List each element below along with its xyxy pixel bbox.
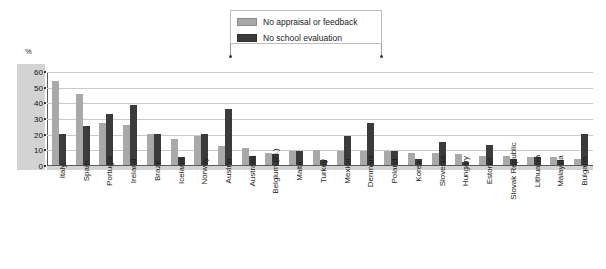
category-label: Bulgaria — [581, 156, 589, 185]
category-label: Slovak Republic — [510, 142, 518, 199]
category-label: Italy — [59, 164, 67, 179]
bar-group — [450, 72, 474, 165]
category-label-cell: Iceland — [166, 169, 190, 265]
bar-group — [189, 72, 213, 165]
y-tick-dot-40 — [44, 102, 46, 104]
category-label: Poland — [391, 159, 399, 184]
y-tick-10: 10 — [17, 146, 43, 155]
legend-callout-dot-right — [380, 55, 383, 58]
chart-legend: No appraisal or feedback No school evalu… — [230, 10, 382, 44]
category-label: Turkey — [320, 159, 328, 183]
bar-group — [356, 72, 380, 165]
bar-group — [94, 72, 118, 165]
category-label-cell: Brazil — [142, 169, 166, 265]
bar-group — [71, 72, 95, 165]
y-tick-dot-20 — [44, 134, 46, 136]
bar-group — [427, 72, 451, 165]
bar-group — [166, 72, 190, 165]
legend-item-no-school-evaluation: No school evaluation — [237, 31, 375, 45]
bar — [59, 134, 66, 165]
category-labels: ItalySpainPortugalIrelandBrazilIcelandNo… — [47, 169, 593, 265]
bar — [130, 105, 137, 165]
category-label: Malta — [296, 161, 304, 181]
bar-group — [403, 72, 427, 165]
bar-group — [237, 72, 261, 165]
y-tick-dot-50 — [44, 87, 46, 89]
category-label-cell: Malta — [284, 169, 308, 265]
y-tick-60: 60 — [17, 68, 43, 77]
legend-callout-dot-left — [229, 55, 232, 58]
category-label: Ireland — [130, 159, 138, 183]
y-tick-40: 40 — [17, 99, 43, 108]
category-label-cell: Korea — [403, 169, 427, 265]
category-label: Austria — [225, 159, 233, 184]
legend-label-no-school-evaluation: No school evaluation — [263, 34, 342, 43]
category-label-cell: Denmark — [356, 169, 380, 265]
y-tick-dot-30 — [44, 118, 46, 120]
category-label-cell: Portugal — [94, 169, 118, 265]
category-label: Mexico — [344, 158, 352, 183]
category-label: Lithuania — [534, 155, 542, 187]
category-label-cell: Lithuania — [522, 169, 546, 265]
chart-container: No appraisal or feedback No school evalu… — [0, 0, 606, 269]
bar-group — [308, 72, 332, 165]
category-label-cell: Poland — [379, 169, 403, 265]
category-label-cell: Malaysia — [545, 169, 569, 265]
y-tick-50: 50 — [17, 83, 43, 92]
y-tick-dot-0 — [44, 165, 46, 167]
category-label-cell: Austria — [213, 169, 237, 265]
y-tick-0: 0 — [17, 162, 43, 171]
bar-group — [118, 72, 142, 165]
bar-group — [142, 72, 166, 165]
legend-swatch-dark — [237, 34, 257, 42]
legend-item-no-appraisal: No appraisal or feedback — [237, 15, 375, 29]
bar-group — [379, 72, 403, 165]
legend-swatch-light — [237, 18, 257, 26]
category-label: Australia — [249, 155, 257, 186]
bar — [83, 126, 90, 165]
category-label-cell: Hungary — [450, 169, 474, 265]
category-label-cell: Australia — [237, 169, 261, 265]
category-label: Denmark — [367, 155, 375, 187]
category-label-cell: Bulgaria — [569, 169, 593, 265]
category-label: Spain — [83, 161, 91, 181]
category-label-cell: Turkey — [308, 169, 332, 265]
category-label-cell: Belgium (Fl.) — [261, 169, 285, 265]
bar — [225, 109, 232, 165]
bar-group — [284, 72, 308, 165]
category-label-cell: Slovenia — [427, 169, 451, 265]
y-tick-dot-10 — [44, 149, 46, 151]
bar-group — [474, 72, 498, 165]
category-label-cell: Slovak Republic — [498, 169, 522, 265]
bar-group — [332, 72, 356, 165]
y-tick-dot-60 — [44, 71, 46, 73]
category-label: Malaysia — [557, 155, 565, 187]
category-label: Belgium (Fl.) — [272, 148, 280, 193]
category-label: Norway — [201, 157, 209, 184]
y-tick-30: 30 — [17, 115, 43, 124]
category-label-cell: Norway — [189, 169, 213, 265]
category-label-cell: Spain — [71, 169, 95, 265]
category-label: Iceland — [178, 158, 186, 184]
bar-group — [522, 72, 546, 165]
category-label: Portugal — [106, 156, 114, 186]
category-label: Brazil — [154, 161, 162, 181]
category-label-cell: Italy — [47, 169, 71, 265]
category-label-cell: Ireland — [118, 169, 142, 265]
category-label: Estonia — [486, 158, 494, 185]
bar-group — [47, 72, 71, 165]
y-axis-unit-label: % — [25, 47, 32, 56]
bar-group — [545, 72, 569, 165]
legend-label-no-appraisal: No appraisal or feedback — [263, 18, 358, 27]
bar — [76, 94, 83, 165]
y-tick-20: 20 — [17, 130, 43, 139]
category-label: Hungary — [462, 156, 470, 186]
category-label: Slovenia — [439, 156, 447, 187]
bar — [52, 81, 59, 165]
category-label-cell: Estonia — [474, 169, 498, 265]
bar-group — [569, 72, 593, 165]
bar-group — [213, 72, 237, 165]
category-label-cell: Mexico — [332, 169, 356, 265]
category-label: Korea — [415, 160, 423, 181]
